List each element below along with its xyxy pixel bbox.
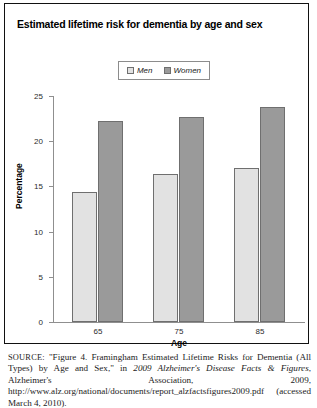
- legend-entry-women: Women: [164, 66, 202, 75]
- figure-frame: Estimated lifetime risk for dementia by …: [4, 3, 309, 344]
- x-tick-label-85: 85: [234, 327, 286, 336]
- bar-men-85: [234, 168, 259, 322]
- source-publication-title: 2009 Alzheimer's Disease Facts & Figures: [133, 363, 308, 373]
- legend-label-men: Men: [137, 66, 153, 75]
- chart-title: Estimated lifetime risk for dementia by …: [17, 18, 302, 30]
- bar-women-85: [260, 107, 285, 322]
- x-tick-label-65: 65: [72, 327, 124, 336]
- plot-area: 25 20 15 10 5 0 65 75: [53, 94, 305, 323]
- bar-women-75: [179, 117, 204, 322]
- legend-entry-men: Men: [127, 66, 153, 75]
- y-tick-0: 0: [49, 322, 53, 323]
- x-axis-line: [53, 322, 305, 323]
- legend-swatch-men-icon: [127, 67, 134, 74]
- source-label: SOURCE:: [8, 353, 45, 362]
- figure-page: Estimated lifetime risk for dementia by …: [0, 0, 317, 408]
- chart-legend: Men Women: [118, 61, 210, 80]
- y-axis-title: Percentage: [14, 163, 24, 209]
- source-note: SOURCE: "Figure 4. Framingham Estimated …: [8, 352, 311, 408]
- legend-label-women: Women: [174, 66, 202, 75]
- x-axis-title: Age: [53, 338, 305, 348]
- bar-women-65: [98, 121, 123, 322]
- bar-men-75: [153, 174, 178, 322]
- x-tick-label-75: 75: [153, 327, 205, 336]
- bar-series-container: 65 75 85: [53, 95, 305, 322]
- legend-swatch-women-icon: [164, 67, 171, 74]
- bar-men-65: [72, 192, 97, 322]
